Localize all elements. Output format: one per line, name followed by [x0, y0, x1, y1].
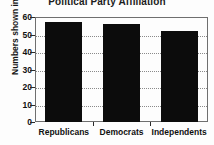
x-axis-tick [93, 122, 94, 126]
bars-container [35, 17, 208, 122]
chart-title: Political Party Affiliation [0, 0, 214, 7]
x-axis-tick-label: Republicans [35, 127, 93, 138]
x-axis-tick-labels: RepublicansDemocratsIndependents [33, 127, 211, 141]
x-axis-tick-label: Democrats [93, 127, 151, 138]
x-axis-tick [150, 122, 151, 126]
bar [103, 24, 140, 122]
x-axis-tick-label: Independents [150, 127, 208, 138]
bar-chart: Political Party Affiliation Numbers show… [0, 0, 214, 145]
bar [45, 22, 82, 122]
bar [161, 31, 198, 122]
